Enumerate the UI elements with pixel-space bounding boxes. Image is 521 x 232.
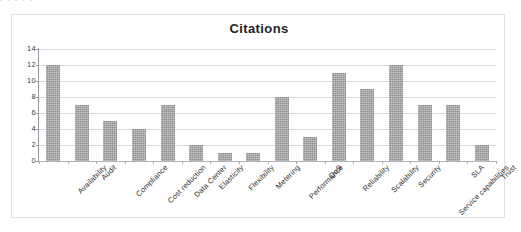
x-axis-tick-label: Scalability [390,163,421,194]
x-axis-tick-label: SLA [469,163,486,180]
bar [418,105,432,161]
x-axis-tick-label: Metering [274,163,302,191]
y-axis-tick-label: 10 [14,76,36,85]
bar [446,105,460,161]
y-axis-tick-label: 6 [14,108,36,117]
bar [389,65,403,161]
bar [161,105,175,161]
y-axis-tick-label: 2 [14,140,36,149]
x-axis-tick-label: Flexibility [246,163,275,192]
y-axis-tick-label: 8 [14,92,36,101]
bar [189,145,203,161]
x-axis-tick-label: Compliance [134,163,169,198]
x-axis-tick-label: Reliability [361,163,391,193]
x-axis-tick-label: Security [416,163,442,189]
y-axis-tick-label: 0 [14,156,36,165]
gridline [39,65,496,66]
chart-title: Citations [12,21,506,36]
y-axis-tick-label: 4 [14,124,36,133]
y-axis-tick-label: 14 [14,44,36,53]
bar [218,153,232,161]
bar [303,137,317,161]
chart-container: Citations 02468101214 AvailabilityAuditC… [11,14,505,218]
bar [246,153,260,161]
bar [46,65,60,161]
bar [475,145,489,161]
gridline [39,81,496,82]
y-axis-tick-labels: 02468101214 [12,49,36,161]
bar [332,73,346,161]
clipped-caption-above: p p p p p [0,0,521,7]
clipped-caption-text: p p p p p [0,0,35,1]
bar [275,97,289,161]
bar [75,105,89,161]
y-axis-tick-label: 12 [14,60,36,69]
bar [360,89,374,161]
gridline [39,49,496,50]
x-axis-category-labels: AvailabilityAuditComplianceCost reductio… [39,163,509,219]
gridline [39,97,496,98]
bar [132,129,146,161]
bar [103,121,117,161]
plot-area [39,49,496,161]
